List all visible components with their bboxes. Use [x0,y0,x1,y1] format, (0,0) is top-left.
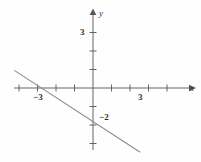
y-axis-label: y [99,9,103,18]
x-axis-label: x [190,84,194,93]
coordinate-plane-svg [0,0,201,162]
y-axis-tick-label-neg2: −2 [99,113,109,122]
graph-figure: y x 3 3 −3 −2 [0,0,201,162]
plotted-line [14,70,140,152]
x-axis-tick-label-neg3: −3 [33,93,43,102]
x-axis-tick-label-3: 3 [138,93,143,102]
y-axis-tick-label-3: 3 [80,28,85,37]
y-axis-arrow-icon [90,9,97,16]
